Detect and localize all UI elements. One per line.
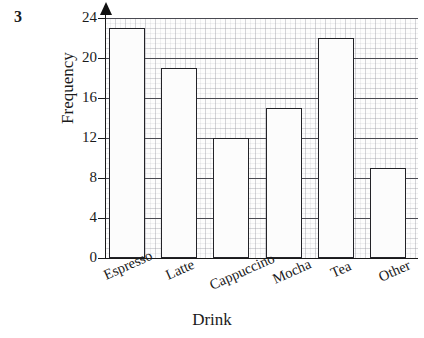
y-tick-mark [98,258,106,259]
bar-tea [318,38,354,258]
y-tick-mark [98,18,106,19]
y-axis-arrow-icon [100,2,112,15]
y-axis-title: Frequency [58,8,78,168]
bar-cappuccino [213,138,249,258]
bar-espresso [109,28,145,258]
plot-area [105,18,418,258]
x-label-tea: Tea [328,258,354,282]
bar-mocha [266,108,302,258]
bar-latte [161,68,197,258]
y-tick-mark [98,98,106,99]
y-axis-line [105,12,106,258]
x-label-latte: Latte [163,256,197,284]
y-tick-label: 0 [57,250,97,265]
y-tick-mark [98,178,106,179]
x-label-other: Other [376,257,413,286]
y-tick-mark [98,58,106,59]
y-tick-mark [98,138,106,139]
question-number: 3 [14,8,22,26]
y-tick-label: 8 [57,170,97,185]
bar-chart-figure: 3 04812162024 Frequency EspressoLatteCap… [0,0,424,338]
bar-other [370,168,406,258]
x-label-mocha: Mocha [270,256,314,288]
x-axis-title: Drink [0,310,424,330]
y-tick-label: 4 [57,210,97,225]
y-tick-mark [98,218,106,219]
